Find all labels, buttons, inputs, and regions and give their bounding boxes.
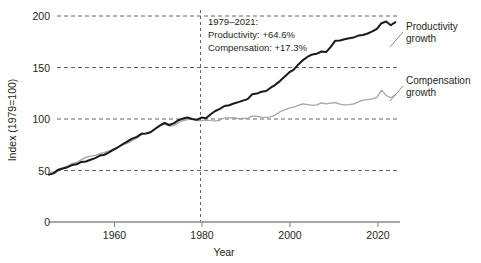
chart-canvas: 200 150 100 50 0 1960 1980 2000 2020 Yea… [0,0,481,263]
x-axis-title: Year [213,246,235,258]
series-label-productivity-line1: Productivity [406,21,458,32]
annotation-block: 1979–2021: Productivity: +64.6% Compensa… [208,16,308,53]
series-label-compensation-line1: Compensation [406,75,470,86]
annotation-line-2: Productivity: +64.6% [208,29,295,40]
annotation-line-1: 1979–2021: [208,16,258,27]
y-axis-tick-labels: 200 150 100 50 0 [32,10,50,228]
series-label-productivity-line2: growth [406,33,436,44]
ytick-label-200: 200 [32,10,50,22]
xtick-label-2000: 2000 [278,229,302,241]
ytick-label-100: 100 [32,113,50,125]
xtick-label-1960: 1960 [103,229,127,241]
series-label-productivity-group: Productivity growth [390,21,458,47]
y-axis-title: Index (1979=100) [6,79,18,162]
x-axis-ticks [115,222,379,227]
ytick-label-0: 0 [44,216,50,228]
xtick-label-2020: 2020 [366,229,390,241]
productivity-compensation-chart: 200 150 100 50 0 1960 1980 2000 2020 Yea… [0,0,481,263]
series-label-compensation-group: Compensation growth [390,75,470,101]
annotation-line-3: Compensation: +17.3% [208,42,308,53]
xtick-label-1980: 1980 [190,229,214,241]
ytick-label-150: 150 [32,62,50,74]
series-label-compensation-line2: growth [406,87,436,98]
x-axis-tick-labels: 1960 1980 2000 2020 [103,229,390,241]
leader-line-productivity [390,32,403,47]
series-line-compensation [49,90,395,173]
leader-line-compensation [390,86,403,101]
